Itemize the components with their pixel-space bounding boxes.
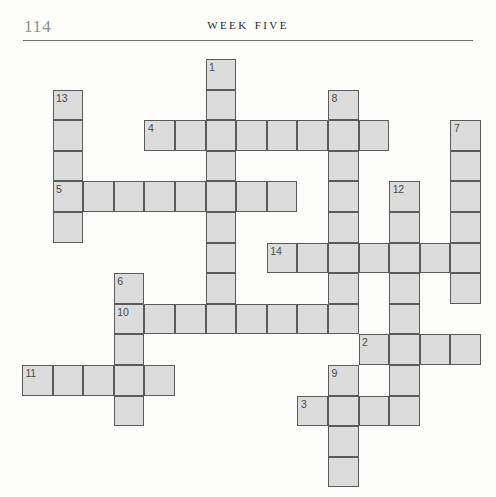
crossword-cell[interactable] (206, 212, 237, 243)
clue-number: 14 (270, 245, 281, 257)
crossword-cell[interactable] (144, 181, 175, 212)
crossword-grid[interactable]: 1138475121461021193 (0, 0, 496, 497)
crossword-cell[interactable] (144, 304, 175, 335)
crossword-cell-8[interactable]: 8 (328, 90, 359, 121)
crossword-cell-4[interactable]: 4 (144, 120, 175, 151)
crossword-cell-6[interactable]: 6 (114, 273, 145, 304)
crossword-cell[interactable] (328, 181, 359, 212)
crossword-cell[interactable] (297, 243, 328, 274)
crossword-cell-5[interactable]: 5 (53, 181, 84, 212)
crossword-cell-11[interactable]: 11 (22, 365, 53, 396)
crossword-page: 114 Week Five 1138475121461021193 (0, 0, 496, 497)
clue-number: 11 (26, 367, 37, 379)
clue-number: 10 (117, 306, 128, 318)
crossword-cell[interactable] (144, 365, 175, 396)
crossword-cell[interactable] (328, 120, 359, 151)
crossword-cell[interactable] (206, 181, 237, 212)
crossword-cell[interactable] (175, 304, 206, 335)
crossword-cell[interactable] (450, 243, 481, 274)
crossword-cell[interactable] (389, 273, 420, 304)
crossword-cell-1[interactable]: 1 (206, 59, 237, 90)
crossword-cell-2[interactable]: 2 (359, 334, 390, 365)
clue-number: 6 (117, 275, 123, 287)
crossword-cell[interactable] (328, 273, 359, 304)
crossword-cell[interactable] (83, 181, 114, 212)
clue-number: 8 (332, 92, 338, 104)
crossword-cell[interactable] (206, 273, 237, 304)
crossword-cell[interactable] (450, 212, 481, 243)
clue-number: 12 (393, 183, 404, 195)
crossword-cell[interactable] (328, 457, 359, 488)
crossword-cell[interactable] (236, 304, 267, 335)
crossword-cell[interactable] (236, 120, 267, 151)
crossword-cell[interactable] (297, 304, 328, 335)
crossword-cell[interactable] (450, 334, 481, 365)
crossword-cell[interactable] (53, 151, 84, 182)
crossword-cell[interactable] (206, 151, 237, 182)
crossword-cell[interactable] (359, 243, 390, 274)
crossword-cell-12[interactable]: 12 (389, 181, 420, 212)
crossword-cell[interactable] (450, 151, 481, 182)
crossword-cell[interactable] (114, 334, 145, 365)
crossword-cell[interactable] (389, 212, 420, 243)
crossword-cell[interactable] (420, 334, 451, 365)
crossword-cell[interactable] (328, 151, 359, 182)
crossword-cell[interactable] (328, 396, 359, 427)
crossword-cell[interactable] (328, 243, 359, 274)
clue-number: 9 (332, 367, 338, 379)
crossword-cell[interactable] (206, 243, 237, 274)
crossword-cell[interactable] (53, 212, 84, 243)
crossword-cell[interactable] (206, 120, 237, 151)
crossword-cell[interactable] (328, 304, 359, 335)
crossword-cell[interactable] (450, 181, 481, 212)
crossword-cell-9[interactable]: 9 (328, 365, 359, 396)
crossword-cell[interactable] (83, 365, 114, 396)
clue-number: 1 (209, 61, 215, 73)
crossword-cell[interactable] (389, 334, 420, 365)
clue-number: 4 (148, 122, 154, 134)
crossword-cell[interactable] (114, 365, 145, 396)
crossword-cell[interactable] (267, 120, 298, 151)
crossword-cell[interactable] (236, 181, 267, 212)
crossword-cell-14[interactable]: 14 (267, 243, 298, 274)
crossword-cell[interactable] (206, 90, 237, 121)
crossword-cell[interactable] (297, 120, 328, 151)
crossword-cell[interactable] (328, 426, 359, 457)
crossword-cell-10[interactable]: 10 (114, 304, 145, 335)
clue-number: 7 (454, 122, 460, 134)
crossword-cell[interactable] (359, 396, 390, 427)
crossword-cell[interactable] (420, 243, 451, 274)
crossword-cell-3[interactable]: 3 (297, 396, 328, 427)
crossword-cell[interactable] (53, 365, 84, 396)
crossword-cell-13[interactable]: 13 (53, 90, 84, 121)
clue-number: 5 (56, 183, 62, 195)
crossword-cell[interactable] (114, 396, 145, 427)
crossword-cell[interactable] (175, 120, 206, 151)
clue-number: 2 (362, 336, 368, 348)
crossword-cell[interactable] (389, 304, 420, 335)
clue-number: 13 (56, 92, 67, 104)
crossword-cell[interactable] (206, 304, 237, 335)
crossword-cell[interactable] (389, 396, 420, 427)
crossword-cell[interactable] (53, 120, 84, 151)
crossword-cell[interactable] (359, 120, 390, 151)
crossword-cell[interactable] (175, 181, 206, 212)
crossword-cell[interactable] (450, 273, 481, 304)
crossword-cell[interactable] (114, 181, 145, 212)
crossword-cell[interactable] (328, 212, 359, 243)
clue-number: 3 (301, 398, 307, 410)
crossword-cell[interactable] (389, 243, 420, 274)
crossword-cell-7[interactable]: 7 (450, 120, 481, 151)
crossword-cell[interactable] (267, 181, 298, 212)
crossword-cell[interactable] (267, 304, 298, 335)
crossword-cell[interactable] (389, 365, 420, 396)
